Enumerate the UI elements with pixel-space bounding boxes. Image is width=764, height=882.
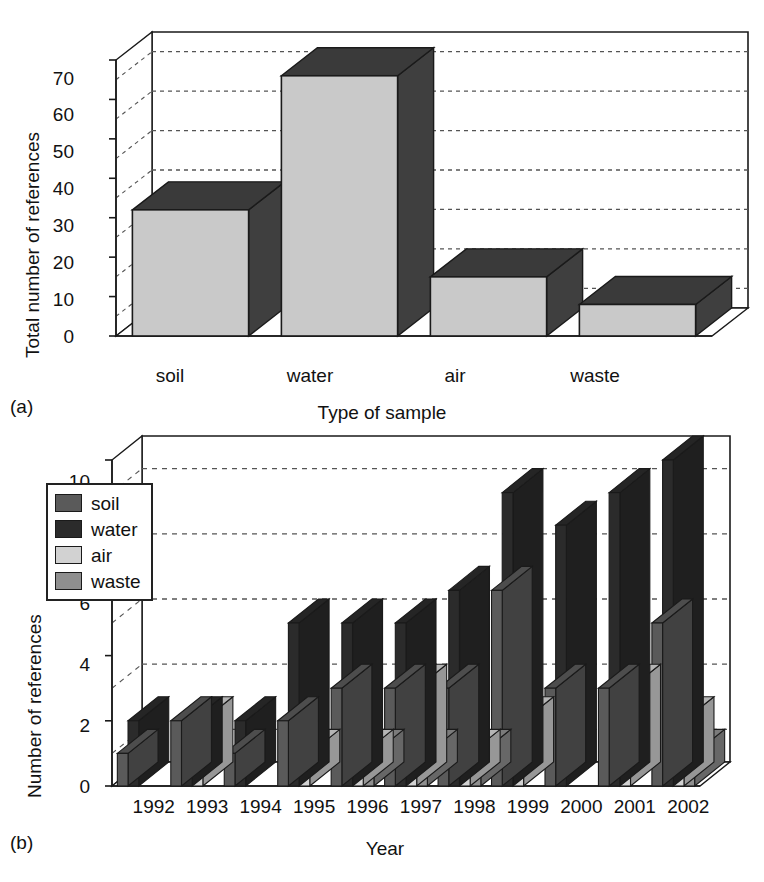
bar-side bbox=[663, 599, 693, 786]
bar-front bbox=[171, 721, 182, 786]
bar-front bbox=[430, 277, 546, 336]
panel-b-chart: (b) Number of references Year 10 8 6 4 2… bbox=[0, 440, 764, 882]
legend-swatch-soil-icon bbox=[55, 494, 82, 512]
legend-label-water: water bbox=[91, 520, 137, 539]
figure-page: (a) Total number of references Type of s… bbox=[0, 0, 764, 882]
legend-label-air: air bbox=[91, 546, 112, 565]
legend-item-air: air bbox=[55, 542, 141, 568]
bar-side bbox=[398, 48, 434, 336]
panel-b-xtick-2002: 2002 bbox=[654, 796, 722, 818]
legend-swatch-waste-icon bbox=[55, 572, 82, 590]
panel-a-chart: (a) Total number of references Type of s… bbox=[0, 0, 764, 440]
bar-front bbox=[598, 688, 609, 786]
legend-swatch-water-icon bbox=[55, 520, 82, 538]
legend-label-waste: waste bbox=[91, 572, 141, 591]
bar-front bbox=[579, 304, 695, 336]
bar-front bbox=[281, 76, 397, 336]
panel-b-legend: soilwaterairwaste bbox=[46, 483, 153, 601]
bar-front bbox=[278, 721, 289, 786]
bar-front bbox=[132, 210, 248, 336]
legend-label-soil: soil bbox=[91, 494, 120, 513]
legend-swatch-air-icon bbox=[55, 546, 82, 564]
legend-item-soil: soil bbox=[55, 490, 141, 516]
legend-item-water: water bbox=[55, 516, 141, 542]
panel-a-plot bbox=[0, 0, 764, 440]
legend-item-waste: waste bbox=[55, 568, 141, 594]
bar-front bbox=[117, 753, 128, 786]
